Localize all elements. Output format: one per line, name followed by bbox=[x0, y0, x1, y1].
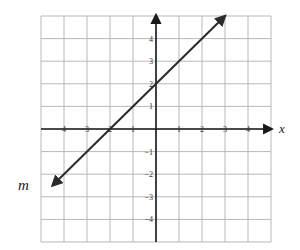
x-tick-label: 2 bbox=[200, 125, 204, 134]
x-tick-label: 3 bbox=[85, 125, 89, 134]
y-tick-label: 3 bbox=[149, 57, 153, 66]
axes bbox=[41, 15, 272, 242]
line-label-m: m bbox=[18, 177, 29, 193]
y-tick-label: −1 bbox=[144, 148, 153, 157]
y-tick-label: −2 bbox=[144, 170, 153, 179]
data-series bbox=[53, 16, 226, 186]
x-tick-label: 1 bbox=[131, 125, 135, 134]
x-axis-label: x bbox=[278, 121, 285, 136]
y-tick-label: −4 bbox=[144, 215, 153, 224]
y-tick-label: 1 bbox=[149, 102, 153, 111]
x-tick-label: 4 bbox=[62, 125, 66, 134]
line-m bbox=[53, 16, 226, 186]
x-tick-label: 1 bbox=[177, 125, 181, 134]
x-tick-label: 4 bbox=[246, 125, 250, 134]
y-tick-label: −3 bbox=[144, 193, 153, 202]
coordinate-plane: 432112344321−1−2−3−4 x m bbox=[0, 0, 300, 250]
x-tick-label: 3 bbox=[223, 125, 227, 134]
y-tick-label: 4 bbox=[149, 35, 153, 44]
